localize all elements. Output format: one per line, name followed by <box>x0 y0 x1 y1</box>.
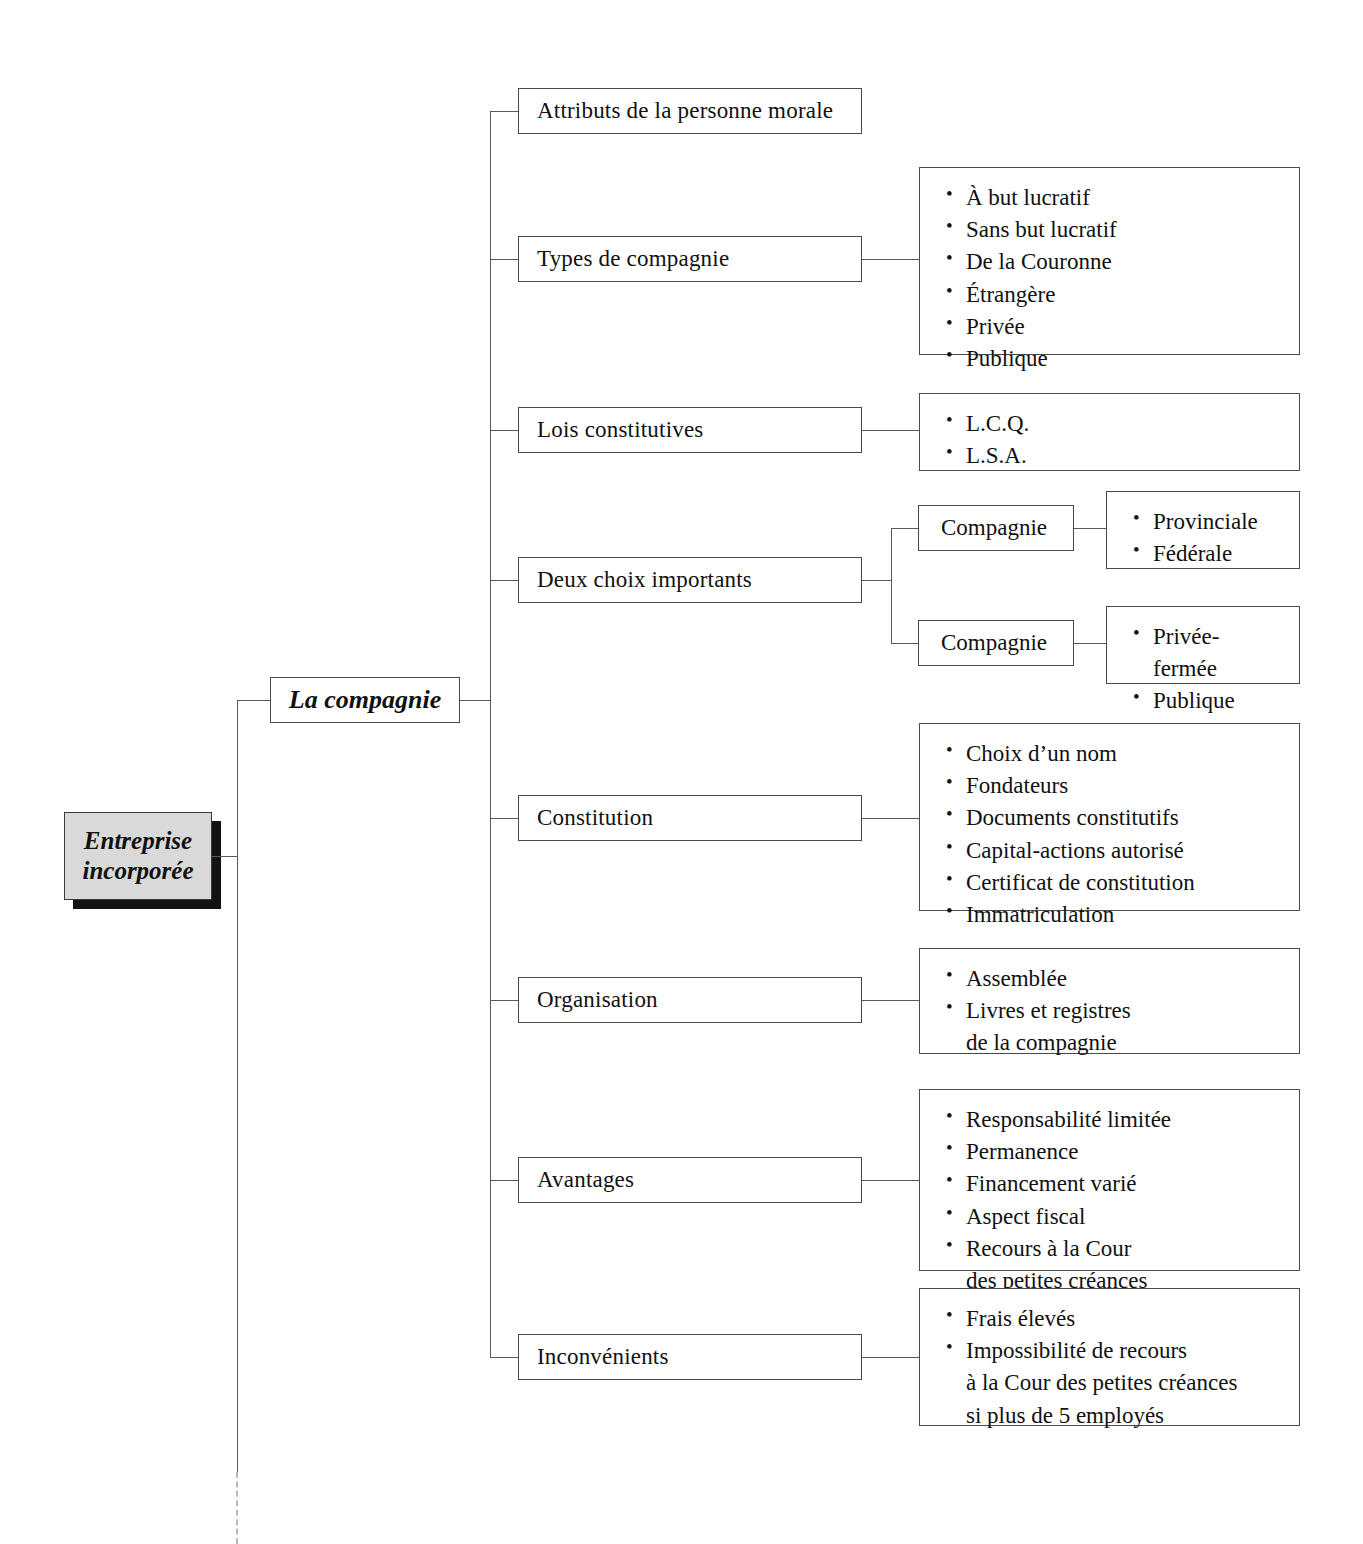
list-item: Publique <box>1131 685 1283 717</box>
list-item: Immatriculation <box>944 899 1283 931</box>
list-item: Provinciale <box>1131 506 1283 538</box>
list-item: Privée-fermée <box>1131 621 1283 685</box>
connector-branch-3 <box>490 430 518 431</box>
category-box-deux-choix-importants: Deux choix importants <box>518 557 862 603</box>
list-box-compagnie-2: Privée-fermée Publique <box>1106 606 1300 684</box>
list-item: Fédérale <box>1131 538 1283 570</box>
category-box-avantages: Avantages <box>518 1157 862 1203</box>
connector-avantages-to-list <box>862 1180 919 1181</box>
connector-branch-4 <box>490 580 518 581</box>
connector-root-stub <box>212 856 238 857</box>
bullet-list: Provinciale Fédérale <box>1131 506 1283 570</box>
bullet-list: Responsabilité limitée Permanence Financ… <box>944 1104 1283 1297</box>
category-label: Types de compagnie <box>537 246 729 272</box>
connector-compagnie-stub <box>460 700 490 701</box>
list-item: Documents constitutifs <box>944 802 1283 834</box>
category-label: Deux choix importants <box>537 567 752 593</box>
list-item: Permanence <box>944 1136 1283 1168</box>
list-item: L.S.A. <box>944 440 1283 472</box>
list-box-inconvenients: Frais élevés Impossibilité de recours à … <box>919 1288 1300 1426</box>
subnode-label: Compagnie <box>941 630 1047 656</box>
list-item: De la Couronne <box>944 246 1283 278</box>
connector-branch-5 <box>490 818 518 819</box>
connector-dashed-continuation <box>236 1472 238 1544</box>
list-box-organisation: Assemblée Livres et registres de la comp… <box>919 948 1300 1054</box>
list-item: Livres et registres de la compagnie <box>944 995 1283 1059</box>
connector-branch-2 <box>490 259 518 260</box>
connector-deuxchoix-stub <box>862 580 892 581</box>
category-box-attributs-de-la-personne-morale: Attributs de la personne morale <box>518 88 862 134</box>
bullet-list: Assemblée Livres et registres de la comp… <box>944 963 1283 1060</box>
bullet-list: Choix d’un nom Fondateurs Documents cons… <box>944 738 1283 931</box>
connector-deuxchoix-sub-1 <box>891 528 918 529</box>
bullet-list: L.C.Q. L.S.A. <box>944 408 1283 472</box>
connector-branch-6 <box>490 1000 518 1001</box>
org-chart-diagram: Entreprise incorporée La compagnie Attri… <box>0 0 1363 1544</box>
root-node-label-line1: Entreprise <box>84 826 192 857</box>
connector-main-spine <box>490 111 491 1357</box>
connector-trunk-to-compagnie <box>237 700 270 701</box>
list-item: Responsabilité limitée <box>944 1104 1283 1136</box>
list-box-lois-constitutives: L.C.Q. L.S.A. <box>919 393 1300 471</box>
connector-branch-8 <box>490 1357 518 1358</box>
list-item: Assemblée <box>944 963 1283 995</box>
list-item: Aspect fiscal <box>944 1201 1283 1233</box>
list-item: À but lucratif <box>944 182 1283 214</box>
category-label: Lois constitutives <box>537 417 704 443</box>
bullet-list: À but lucratif Sans but lucratif De la C… <box>944 182 1283 375</box>
connector-constitution-to-list <box>862 818 919 819</box>
list-box-types-de-compagnie: À but lucratif Sans but lucratif De la C… <box>919 167 1300 355</box>
connector-compagnie-1-to-list <box>1074 528 1106 529</box>
connector-types-to-list <box>862 259 919 260</box>
connector-deuxchoix-sub-2 <box>891 643 918 644</box>
bullet-list: Frais élevés Impossibilité de recours à … <box>944 1303 1283 1432</box>
connector-inconvenients-to-list <box>862 1357 919 1358</box>
list-item: Fondateurs <box>944 770 1283 802</box>
connector-branch-7 <box>490 1180 518 1181</box>
category-box-organisation: Organisation <box>518 977 862 1023</box>
root-node-label-line2: incorporée <box>82 856 193 887</box>
list-item: Publique <box>944 343 1283 375</box>
subnode-box-compagnie-2: Compagnie <box>918 620 1074 666</box>
category-label: Constitution <box>537 805 653 831</box>
subnode-box-compagnie-1: Compagnie <box>918 505 1074 551</box>
category-box-lois-constitutives: Lois constitutives <box>518 407 862 453</box>
list-box-constitution: Choix d’un nom Fondateurs Documents cons… <box>919 723 1300 911</box>
category-label: Organisation <box>537 987 658 1013</box>
connector-organisation-to-list <box>862 1000 919 1001</box>
list-item: Certificat de constitution <box>944 867 1283 899</box>
list-item: Capital-actions autorisé <box>944 835 1283 867</box>
category-box-inconvenients: Inconvénients <box>518 1334 862 1380</box>
connector-compagnie-2-to-list <box>1074 643 1106 644</box>
connector-branch-1 <box>490 111 518 112</box>
category-label: Attributs de la personne morale <box>537 98 833 124</box>
subnode-label: Compagnie <box>941 515 1047 541</box>
list-box-compagnie-1: Provinciale Fédérale <box>1106 491 1300 569</box>
node-la-compagnie-label: La compagnie <box>289 685 441 715</box>
root-node-entreprise-incorporee: Entreprise incorporée <box>64 812 212 900</box>
list-item: Financement varié <box>944 1168 1283 1200</box>
bullet-list: Privée-fermée Publique <box>1131 621 1283 718</box>
list-box-avantages: Responsabilité limitée Permanence Financ… <box>919 1089 1300 1271</box>
category-box-types-de-compagnie: Types de compagnie <box>518 236 862 282</box>
list-item: Privée <box>944 311 1283 343</box>
list-item: Impossibilité de recours à la Cour des p… <box>944 1335 1283 1432</box>
category-label: Inconvénients <box>537 1344 669 1370</box>
list-item: Choix d’un nom <box>944 738 1283 770</box>
category-label: Avantages <box>537 1167 634 1193</box>
connector-root-trunk-vertical <box>237 700 238 1473</box>
connector-lois-to-list <box>862 430 919 431</box>
category-box-constitution: Constitution <box>518 795 862 841</box>
connector-deuxchoix-vertical <box>891 528 892 643</box>
list-item: Étrangère <box>944 279 1283 311</box>
list-item: Frais élevés <box>944 1303 1283 1335</box>
node-la-compagnie: La compagnie <box>270 677 460 723</box>
list-item: Sans but lucratif <box>944 214 1283 246</box>
list-item: L.C.Q. <box>944 408 1283 440</box>
